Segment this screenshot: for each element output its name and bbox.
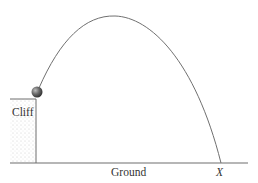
projectile-diagram: Cliff Ground X [0,0,258,183]
trajectory-curve [39,16,221,163]
cliff-label: Cliff [12,106,34,118]
ball [32,87,43,98]
landing-point-label: X [215,166,224,178]
ground-label: Ground [111,166,146,178]
